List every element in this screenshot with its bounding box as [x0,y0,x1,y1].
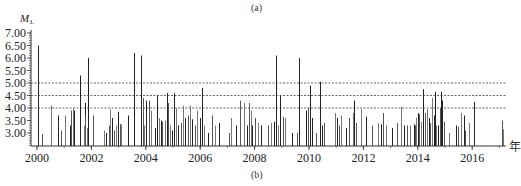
reference-lines [31,83,506,108]
y-axis-label-subscript: L [30,18,34,26]
x-tick-label: 2004 [134,151,158,165]
x-tick-label: 2010 [297,151,321,165]
x-tick-label: 2012 [351,151,375,165]
x-tick-label: 2016 [460,151,484,165]
panel-label-b: (b) [251,169,263,180]
x-tick-label: 2014 [406,151,430,165]
x-tick-label: 2008 [243,151,267,165]
y-axis-label: M [19,12,30,24]
axes: 7.006.506.005.505.004.504.003.503.00ML20… [5,12,521,165]
x-axis-label: 年 [509,140,521,154]
x-tick-label: 2002 [79,151,103,165]
earthquake-magnitude-timeline-chart: 7.006.506.005.505.004.504.003.503.00ML20… [0,0,521,186]
x-tick-label: 2000 [25,151,49,165]
x-tick-label: 2006 [188,151,212,165]
y-tick-label: 3.00 [5,126,26,140]
